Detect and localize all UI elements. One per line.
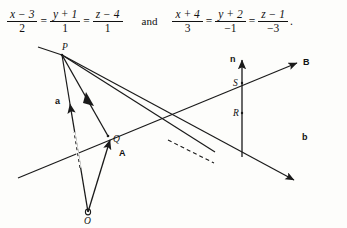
numerator-variable: x xyxy=(175,8,180,20)
fraction-denominator: −1 xyxy=(221,22,239,35)
label-point-r: R xyxy=(233,108,239,118)
line-q-to-b-vector xyxy=(18,63,297,178)
fraction-numerator: y + 2 xyxy=(215,8,245,21)
fraction-1-2: y + 1 1 xyxy=(50,8,80,34)
numerator-constant: 3 xyxy=(29,8,35,20)
numerator-operator: − xyxy=(103,8,111,20)
fraction-numerator: z − 1 xyxy=(258,8,288,21)
label-vector-B-upper: B xyxy=(303,57,310,67)
fraction-denominator: −3 xyxy=(264,22,282,35)
label-vector-A-upper: A xyxy=(119,148,126,158)
label-vector-a-lower: a xyxy=(55,96,60,106)
numerator-constant: 4 xyxy=(114,8,120,20)
equation-line-2: x + 4 3 = y + 2 −1 = z − 1 −3 . xyxy=(171,8,292,34)
equals-sign: = xyxy=(249,15,256,27)
label-point-s: S xyxy=(233,78,238,88)
numerator-variable: z xyxy=(261,8,265,20)
fraction-denominator: 1 xyxy=(102,22,114,35)
fraction-1-1: x − 3 2 xyxy=(7,8,37,34)
numerator-operator: + xyxy=(183,8,191,20)
numerator-variable: y xyxy=(53,8,58,20)
numerator-constant: 1 xyxy=(72,8,78,20)
point-r-dot xyxy=(241,112,243,114)
numerator-operator: + xyxy=(61,8,69,20)
label-point-o: O xyxy=(84,216,91,226)
trailing-period: . xyxy=(290,15,293,27)
equals-sign: = xyxy=(83,15,90,27)
equals-sign: = xyxy=(40,15,47,27)
numerator-variable: y xyxy=(218,8,223,20)
point-p-dot xyxy=(61,54,64,57)
fraction-numerator: x − 3 xyxy=(7,8,37,21)
fraction-numerator: x + 4 xyxy=(172,8,202,21)
numerator-constant: 2 xyxy=(237,8,243,20)
numerator-operator: + xyxy=(226,8,234,20)
diagram-canvas xyxy=(0,40,347,228)
label-vector-n: n xyxy=(230,54,236,64)
equals-sign: = xyxy=(206,15,213,27)
figure-page: x − 3 2 = y + 1 1 = z − 4 1 and x + 4 xyxy=(0,0,347,228)
vector-A-arrow xyxy=(88,140,110,212)
fraction-denominator: 2 xyxy=(16,22,28,35)
line-from-p-dashed-segment xyxy=(168,140,214,163)
fraction-numerator: z − 4 xyxy=(93,8,123,21)
point-s-dot xyxy=(241,82,243,84)
label-point-p: P xyxy=(62,42,68,52)
label-point-q: Q xyxy=(113,134,120,144)
numerator-operator: − xyxy=(18,8,26,20)
fraction-numerator: y + 1 xyxy=(50,8,80,21)
equation-line-1: x − 3 2 = y + 1 1 = z − 4 1 xyxy=(6,8,124,34)
point-q-dot xyxy=(107,135,110,138)
fraction-1-3: z − 4 1 xyxy=(93,8,123,34)
numerator-constant: 4 xyxy=(194,8,200,20)
numerator-variable: x xyxy=(10,8,15,20)
fraction-2-2: y + 2 −1 xyxy=(215,8,245,34)
numerator-variable: z xyxy=(96,8,100,20)
numerator-constant: 1 xyxy=(279,8,285,20)
fraction-denominator: 1 xyxy=(59,22,71,35)
fraction-2-1: x + 4 3 xyxy=(172,8,202,34)
line-through-p-left-extension xyxy=(38,47,62,55)
conjunction-and: and xyxy=(142,15,158,27)
numerator-operator: − xyxy=(269,8,277,20)
equation-row: x − 3 2 = y + 1 1 = z − 4 1 and x + 4 xyxy=(0,0,347,42)
fraction-denominator: 3 xyxy=(182,22,194,35)
label-vector-b-lower: b xyxy=(302,132,308,142)
vector-diagram: P Q O S R a A n B b xyxy=(0,40,347,228)
fraction-2-3: z − 1 −3 xyxy=(258,8,288,34)
